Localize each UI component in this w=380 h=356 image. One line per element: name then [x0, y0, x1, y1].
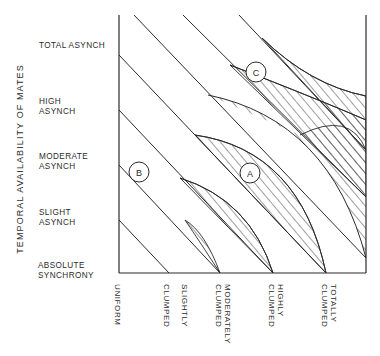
y-axis-title: TEMPORAL AVAILABILITY OF MATES — [15, 64, 25, 254]
x-label-totally-clumped: TOTALLYCLUMPED — [320, 284, 338, 327]
x-label-highly-clumped: HIGHLYCLUMPED — [267, 284, 285, 327]
x-label-moderately-clumped: MODERATELYCLUMPED — [214, 284, 232, 344]
y-label-high-asynch: HIGH ASYNCH — [39, 97, 76, 117]
y-label-moderate-asynch: MODERATE ASYNCH — [39, 152, 88, 172]
y-label-total-asynch: TOTAL ASYNCH — [39, 41, 105, 51]
svg-text:B: B — [136, 168, 142, 178]
hatched-region-slight — [185, 220, 220, 273]
marker-a: A — [240, 163, 260, 183]
x-label-slightly-clumped: SLIGHTLY​CLUMPED — [162, 284, 189, 327]
x-label-uniform: UNIFORM — [113, 284, 122, 326]
svg-text:A: A — [247, 169, 253, 179]
marker-b: B — [129, 162, 149, 182]
marker-c: C — [246, 62, 266, 82]
svg-text:C: C — [253, 68, 260, 78]
y-label-absolute-synchrony: ABSOLUTE SYNCHRONY — [38, 261, 94, 281]
y-label-slight-asynch: SLIGHT ASYNCH — [39, 208, 76, 228]
